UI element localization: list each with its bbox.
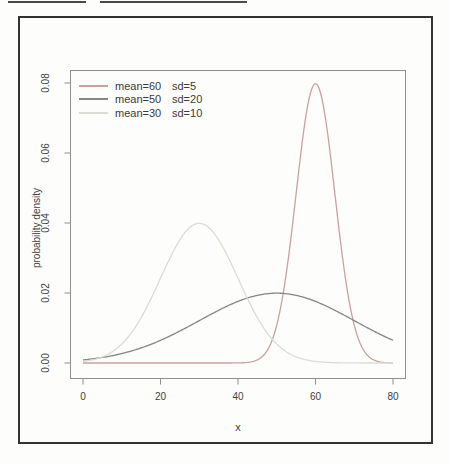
plot-canvas: 0204060800.000.020.040.060.08 (0, 0, 450, 464)
figure: 0204060800.000.020.040.060.08 mean=60 sd… (0, 0, 450, 464)
normal-curve-mean30 (83, 223, 393, 363)
legend-label: sd=20 (172, 93, 202, 105)
legend-item-mean30: mean=30 sd=10 (79, 106, 202, 120)
legend-label: sd=5 (172, 80, 196, 92)
y-tick-label: 0.08 (40, 73, 51, 93)
legend-item-mean50: mean=50 sd=20 (79, 93, 202, 107)
legend-label: mean=30 (115, 107, 172, 119)
legend-label: sd=10 (172, 107, 202, 119)
y-tick-label: 0.06 (40, 143, 51, 163)
normal-curve-mean50 (83, 293, 393, 360)
x-tick-label: 0 (80, 391, 86, 402)
y-tick-label: 0.00 (40, 353, 51, 373)
legend-line-swatch (79, 98, 108, 100)
legend-line-swatch (79, 112, 108, 114)
x-tick-label: 40 (232, 391, 244, 402)
legend: mean=60 sd=5 mean=50 sd=20 mean=30 sd=10 (79, 79, 202, 120)
x-axis-label: x (235, 421, 241, 433)
normal-curve-mean60 (83, 84, 393, 363)
legend-item-mean60: mean=60 sd=5 (79, 79, 202, 93)
x-tick-label: 60 (310, 391, 322, 402)
x-tick-label: 20 (155, 391, 167, 402)
y-tick-label: 0.02 (40, 283, 51, 303)
legend-label: mean=50 (115, 93, 172, 105)
legend-line-swatch (79, 85, 108, 87)
x-tick-label: 80 (387, 391, 399, 402)
y-tick-label: 0.04 (40, 213, 51, 233)
legend-label: mean=60 (115, 80, 172, 92)
y-axis-label: probability density (31, 188, 42, 268)
